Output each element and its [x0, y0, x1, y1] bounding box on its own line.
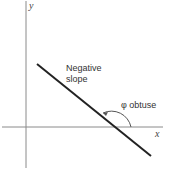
slope-label-line2: slope — [66, 74, 88, 84]
slope-diagram: y x Negative slope φ obtuse — [0, 0, 173, 176]
slope-label-line1: Negative — [66, 63, 102, 73]
y-axis-label: y — [28, 0, 34, 11]
x-axis-label: x — [154, 128, 160, 139]
angle-label: φ obtuse — [121, 100, 156, 110]
negative-slope-line — [37, 64, 151, 156]
